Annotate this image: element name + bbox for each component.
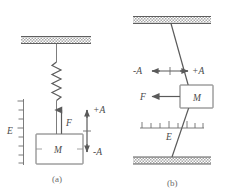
panel-b-amplitude-positive-label: +A <box>192 66 204 76</box>
panel-a-force-label: F <box>65 118 72 128</box>
physics-figure-oscillators: F M E <box>0 0 227 194</box>
panel-b-amplitude-arrow <box>152 67 188 75</box>
panel-b-floor-support-icon <box>133 157 211 164</box>
panel-b-ceiling-support-icon <box>133 17 211 24</box>
panel-a: F M E <box>6 37 105 185</box>
panel-a-ceiling-support-icon <box>21 37 91 44</box>
panel-b-string-lower <box>172 107 189 157</box>
panel-b-string-upper <box>171 24 189 89</box>
panel-a-spring-icon <box>52 62 61 101</box>
panel-b-energy-label: E <box>165 132 172 142</box>
panel-b-amplitude-negative-label: -A <box>133 66 142 76</box>
panel-b-force-label: F <box>139 92 146 102</box>
panel-b-energy-scale <box>140 121 204 128</box>
panel-a-caption: (a) <box>52 174 62 184</box>
panel-b-caption: (b) <box>167 178 178 188</box>
panel-a-amplitude-arrow <box>83 110 91 152</box>
panel-a-energy-label: E <box>6 126 13 136</box>
panel-a-mass-label: M <box>53 145 63 155</box>
panel-b-mass-label: M <box>192 93 202 103</box>
panel-a-energy-scale <box>18 99 24 165</box>
panel-b: -A +A M F E (b) <box>133 17 213 189</box>
panel-a-amplitude-negative-label: -A <box>93 147 102 157</box>
panel-a-amplitude-positive-label: +A <box>93 105 105 115</box>
